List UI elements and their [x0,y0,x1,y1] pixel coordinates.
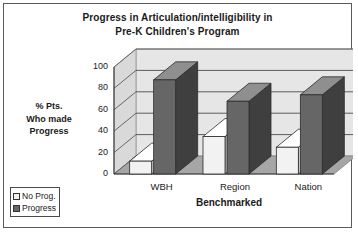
chart-legend: No Prog.Progress [10,187,60,217]
bar-side-face [176,62,198,174]
y-axis-tick-label: 40 [82,126,108,135]
y-axis-tick-label: 0 [82,169,108,178]
bar-front-face [300,95,322,174]
legend-label: No Prog. [22,191,56,201]
legend-swatch-icon [13,193,20,200]
x-axis-tick-label-nation: Nation [276,181,340,192]
y-axis-tick-label: 100 [82,62,108,71]
legend-label: Progress [22,203,56,213]
bar-nation-progress [300,77,344,174]
bar-wbh-progress [154,62,198,174]
y-axis-tick-label: 60 [82,105,108,114]
x-axis-tick-label-region: Region [203,181,267,192]
x-axis-tick-label-wbh: WBH [130,181,194,192]
chart-frame: Progress in Articulation/intelligibility… [3,3,352,228]
legend-item-progress[interactable]: Progress [13,202,56,214]
bar-front-face [276,147,298,174]
y-axis-tick-label: 20 [82,148,108,157]
legend-swatch-icon [13,205,20,212]
bar-region-progress [227,83,271,174]
bar-front-face [203,137,225,174]
bar-front-face [227,101,249,174]
bar-front-face [130,161,152,174]
y-axis-tick-label: 80 [82,83,108,92]
legend-item-noprog[interactable]: No Prog. [13,190,56,202]
bar-front-face [154,80,176,174]
plot-side-wall [114,49,136,174]
x-axis-title: Benchmarked [114,197,344,208]
